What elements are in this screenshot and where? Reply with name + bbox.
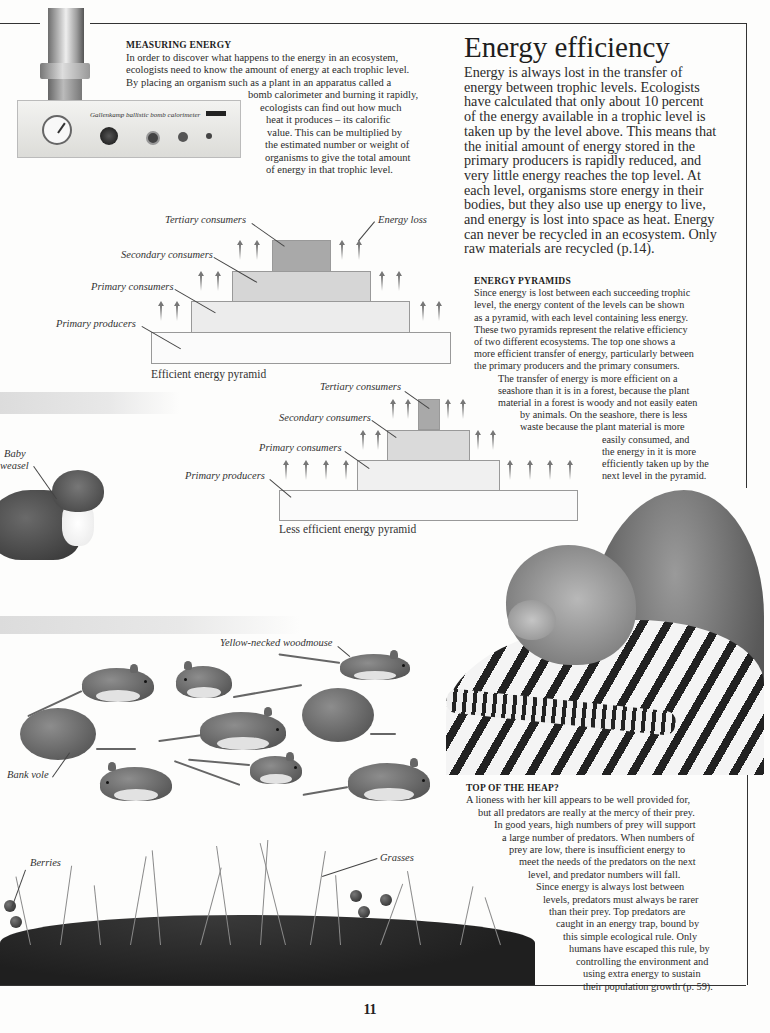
text-line: bomb calorimeter and burning it rapidly, bbox=[248, 89, 418, 102]
efficient-pyramid-caption: Efficient energy pyramid bbox=[151, 368, 266, 380]
text-line: Since energy is always lost between bbox=[536, 881, 713, 893]
energy-loss-arrow-icon bbox=[303, 460, 309, 480]
pyramid-level-primary-producers bbox=[151, 332, 451, 364]
energy-pyramids-heading: ENERGY PYRAMIDS bbox=[474, 275, 709, 287]
pyramid-level-secondary bbox=[232, 271, 371, 302]
energy-loss-arrow-icon bbox=[420, 301, 426, 321]
energy-loss-arrow-icon bbox=[339, 240, 345, 260]
label-baby-weasel: Baby weasel bbox=[0, 448, 29, 472]
text-line: waste because the plant material is more bbox=[520, 421, 709, 433]
text-line: of two different ecosystems. The top one… bbox=[474, 336, 709, 348]
top-rule-left bbox=[0, 23, 40, 24]
woodmouse bbox=[82, 668, 154, 702]
text-line: as a pyramid, with each level containing… bbox=[474, 312, 709, 324]
text-line: each level, organisms store energy in th… bbox=[464, 183, 717, 198]
berry bbox=[380, 894, 392, 906]
label-secondary-consumers: Secondary consumers bbox=[121, 249, 213, 260]
text-line: By placing an organism such as a plant i… bbox=[126, 77, 418, 90]
energy-loss-arrow-icon bbox=[445, 399, 451, 419]
energy-pyramids-section: ENERGY PYRAMIDS Since energy is lost bet… bbox=[474, 275, 709, 482]
energy-loss-arrow-icon bbox=[527, 460, 533, 480]
text-line: very little energy reaches the top level… bbox=[464, 168, 717, 183]
energy-loss-arrow-icon bbox=[356, 240, 362, 260]
text-line: meet the needs of the predators on the n… bbox=[519, 856, 713, 868]
label-tertiary-consumers: Tertiary consumers bbox=[320, 381, 401, 392]
energy-loss-arrow-icon bbox=[379, 271, 385, 291]
text-line: easily consumed, and bbox=[602, 434, 709, 446]
pyramid-level-secondary bbox=[387, 430, 470, 461]
text-line: Baby bbox=[4, 448, 29, 460]
energy-loss-arrow-icon bbox=[198, 271, 204, 291]
pyramid-level-primary-consumers bbox=[191, 301, 410, 333]
vole-tail bbox=[96, 748, 136, 750]
energy-loss-arrow-icon bbox=[436, 301, 442, 321]
bank-vole bbox=[20, 708, 96, 760]
woodmouse bbox=[348, 763, 430, 801]
woodmouse bbox=[176, 666, 232, 698]
label-grasses: Grasses bbox=[380, 852, 414, 863]
text-line: material in a forest is woody and not ea… bbox=[498, 397, 709, 409]
berry bbox=[10, 916, 22, 928]
lioness-paw bbox=[508, 600, 556, 640]
label-woodmouse: Yellow-necked woodmouse bbox=[220, 637, 332, 648]
label-tertiary-consumers: Tertiary consumers bbox=[165, 214, 246, 225]
text-line: ecologists can find out how much bbox=[260, 102, 418, 115]
text-line: the estimated number or weight of bbox=[265, 139, 418, 152]
text-line: efficiently taken up by the bbox=[602, 458, 709, 470]
text-line: organisms to give the total amount bbox=[265, 152, 418, 165]
lioness-with-zebra-image bbox=[446, 490, 764, 775]
top-of-heap-heading: TOP OF THE HEAP? bbox=[466, 782, 713, 794]
measuring-energy-heading: MEASURING ENERGY bbox=[126, 39, 418, 52]
label-bank-vole: Bank vole bbox=[7, 769, 49, 780]
pyramid-level-primary-consumers bbox=[357, 460, 500, 491]
label-energy-loss: Energy loss bbox=[378, 214, 427, 225]
less-efficient-pyramid-caption: Less efficient energy pyramid bbox=[279, 523, 416, 535]
calorimeter-column bbox=[48, 8, 84, 66]
text-line: more efficient transfer of energy, parti… bbox=[474, 348, 709, 360]
text-line: humans have escaped this rule, by bbox=[569, 943, 713, 955]
intro-paragraph: Energy is always lost in the transfer of… bbox=[464, 65, 717, 256]
energy-loss-arrow-icon bbox=[343, 460, 349, 480]
energy-loss-arrow-icon bbox=[174, 301, 180, 321]
text-line: In good years, high numbers of prey will… bbox=[494, 819, 713, 831]
text-line: caught in an energy trap, bound by bbox=[556, 918, 713, 930]
mouse-tail bbox=[303, 786, 349, 796]
text-line: can never be recycled in an ecosystem. O… bbox=[464, 227, 717, 242]
energy-loss-arrow-icon bbox=[475, 430, 481, 450]
label-berries: Berries bbox=[30, 857, 61, 868]
leader-line bbox=[337, 646, 350, 657]
weasel-head bbox=[52, 470, 104, 512]
text-line: seashore than it is in a forest, because… bbox=[498, 385, 709, 397]
energy-loss-arrow-icon bbox=[283, 460, 289, 480]
text-line: value. This can be multiplied by bbox=[267, 127, 418, 140]
text-line: controlling the environment and bbox=[576, 956, 713, 968]
energy-loss-arrow-icon bbox=[254, 240, 260, 260]
text-line: Energy is always lost in the transfer of bbox=[464, 65, 717, 80]
vole-tail bbox=[370, 733, 396, 735]
soil bbox=[0, 915, 535, 985]
label-primary-consumers: Primary consumers bbox=[259, 442, 342, 453]
bank-vole bbox=[302, 688, 374, 742]
energy-loss-arrow-icon bbox=[375, 430, 381, 450]
energy-loss-arrow-icon bbox=[158, 301, 164, 321]
page-title: Energy efficiency bbox=[464, 30, 670, 64]
text-line: bodies, but they also use up energy to l… bbox=[464, 197, 717, 212]
calorimeter-ring bbox=[40, 63, 90, 79]
text-line: weasel bbox=[0, 460, 29, 472]
grasses-and-berries-image bbox=[0, 840, 535, 985]
mouse-tail bbox=[158, 734, 202, 742]
energy-loss-arrow-icon bbox=[390, 399, 396, 419]
text-line: Since energy is lost between each succee… bbox=[474, 287, 709, 299]
page-number: 11 bbox=[350, 1002, 390, 1018]
text-line: In order to discover what happens to the… bbox=[126, 52, 418, 65]
text-line: by animals. On the seashore, there is le… bbox=[520, 409, 709, 421]
energy-loss-arrow-icon bbox=[490, 430, 496, 450]
berry bbox=[350, 890, 362, 902]
text-line: the energy in it is more bbox=[602, 446, 709, 458]
text-line: have calculated that only about 10 perce… bbox=[464, 94, 717, 109]
woodmouse bbox=[250, 756, 302, 784]
text-line: primary producers is rapidly reduced, an… bbox=[464, 153, 717, 168]
text-line: These two pyramids represent the relativ… bbox=[474, 324, 709, 336]
text-line: than their prey. Top predators are bbox=[549, 906, 713, 918]
mouse-tail bbox=[188, 759, 250, 766]
